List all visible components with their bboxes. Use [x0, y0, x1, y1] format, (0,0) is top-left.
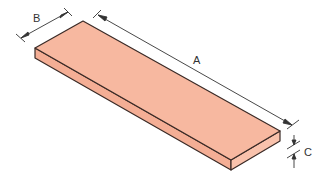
arrowhead-b-left — [21, 32, 29, 38]
top-face — [35, 21, 280, 160]
dimension-label-c: C — [304, 146, 312, 158]
bar-dimension-diagram: B A C — [0, 0, 328, 188]
dimension-label-b: B — [33, 12, 40, 24]
arrowhead-a-bottom — [283, 119, 292, 125]
arrowhead-a-top — [98, 15, 107, 21]
bar-body — [35, 21, 280, 170]
dimension-c — [287, 135, 300, 168]
dimension-label-a: A — [193, 54, 201, 66]
arrowhead-b-right — [60, 12, 68, 18]
